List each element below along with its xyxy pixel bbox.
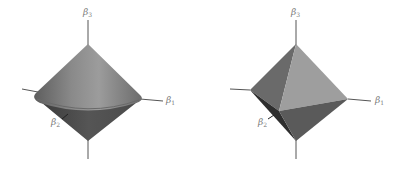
label-beta3: β3 bbox=[291, 8, 300, 18]
label-beta1: β1 bbox=[166, 96, 175, 106]
axis-b2-back bbox=[22, 89, 38, 92]
label-beta3: β3 bbox=[83, 8, 92, 18]
label-beta2: β2 bbox=[51, 118, 60, 128]
axis-b2-back bbox=[230, 89, 250, 90]
octahedron-graphic bbox=[200, 0, 402, 169]
cone-top-surface bbox=[34, 44, 142, 111]
axis-b2-front bbox=[268, 115, 274, 119]
double-cone-figure: β3 β1 β2 bbox=[0, 0, 200, 169]
octahedron-figure: β3 β1 β2 bbox=[200, 0, 402, 169]
double-cone-graphic bbox=[0, 0, 200, 169]
axis-b1 bbox=[348, 99, 371, 101]
axis-b1 bbox=[140, 99, 163, 101]
label-beta2: β2 bbox=[258, 118, 267, 128]
label-beta1: β1 bbox=[375, 96, 384, 106]
